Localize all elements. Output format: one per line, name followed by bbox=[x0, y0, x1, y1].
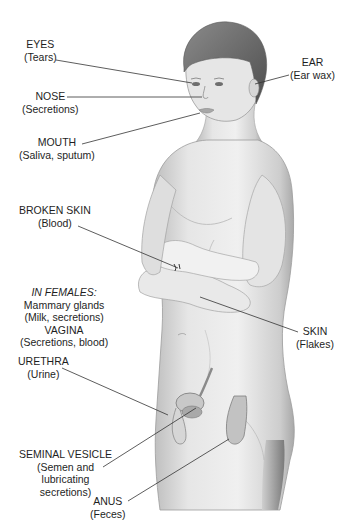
label-urethra-name: URETHRA bbox=[18, 355, 69, 368]
label-seminal-vesicle-name: SEMINAL VESICLE bbox=[19, 448, 112, 461]
label-seminal-vesicle-line2: lubricating bbox=[19, 473, 112, 486]
label-nose-name: NOSE bbox=[22, 90, 79, 103]
label-eyes-detail: (Tears) bbox=[24, 51, 57, 64]
label-seminal-vesicle: SEMINAL VESICLE (Semen and lubricating s… bbox=[19, 448, 112, 498]
leader-eyes bbox=[56, 60, 192, 83]
label-ear: EAR (Ear wax) bbox=[290, 56, 335, 81]
label-females-mammary: Mammary glands bbox=[20, 299, 108, 312]
label-mouth: MOUTH (Saliva, sputum) bbox=[19, 136, 95, 161]
label-mouth-detail: (Saliva, sputum) bbox=[19, 149, 95, 162]
label-nose: NOSE (Secretions) bbox=[22, 90, 79, 115]
label-broken-skin-name: BROKEN SKIN bbox=[19, 204, 91, 217]
label-urethra: URETHRA (Urine) bbox=[18, 355, 69, 380]
label-anus-name: ANUS bbox=[90, 495, 126, 508]
label-skin-name: SKIN bbox=[296, 325, 334, 338]
label-skin: SKIN (Flakes) bbox=[296, 325, 334, 350]
leader-urethra bbox=[62, 368, 168, 415]
label-anus-detail: (Feces) bbox=[90, 508, 126, 521]
label-in-females: IN FEMALES: Mammary glands (Milk, secret… bbox=[20, 286, 108, 349]
label-nose-detail: (Secretions) bbox=[22, 103, 79, 116]
label-ear-name: EAR bbox=[290, 56, 335, 69]
label-mouth-name: MOUTH bbox=[19, 136, 95, 149]
label-broken-skin: BROKEN SKIN (Blood) bbox=[19, 204, 91, 229]
leader-mouth bbox=[82, 113, 200, 144]
label-females-milk: (Milk, secretions) bbox=[20, 311, 108, 324]
label-urethra-detail: (Urine) bbox=[18, 368, 69, 381]
label-eyes: EYES (Tears) bbox=[24, 38, 57, 63]
label-anus: ANUS (Feces) bbox=[90, 495, 126, 520]
label-broken-skin-detail: (Blood) bbox=[19, 217, 91, 230]
label-females-heading: IN FEMALES: bbox=[20, 286, 108, 299]
label-eyes-name: EYES bbox=[24, 38, 57, 51]
label-skin-detail: (Flakes) bbox=[296, 338, 334, 351]
label-females-vagina: VAGINA bbox=[20, 324, 108, 337]
label-seminal-vesicle-line1: (Semen and bbox=[19, 461, 112, 474]
label-females-secretions: (Secretions, blood) bbox=[20, 336, 108, 349]
label-ear-detail: (Ear wax) bbox=[290, 69, 335, 82]
body-silhouette bbox=[138, 100, 294, 510]
